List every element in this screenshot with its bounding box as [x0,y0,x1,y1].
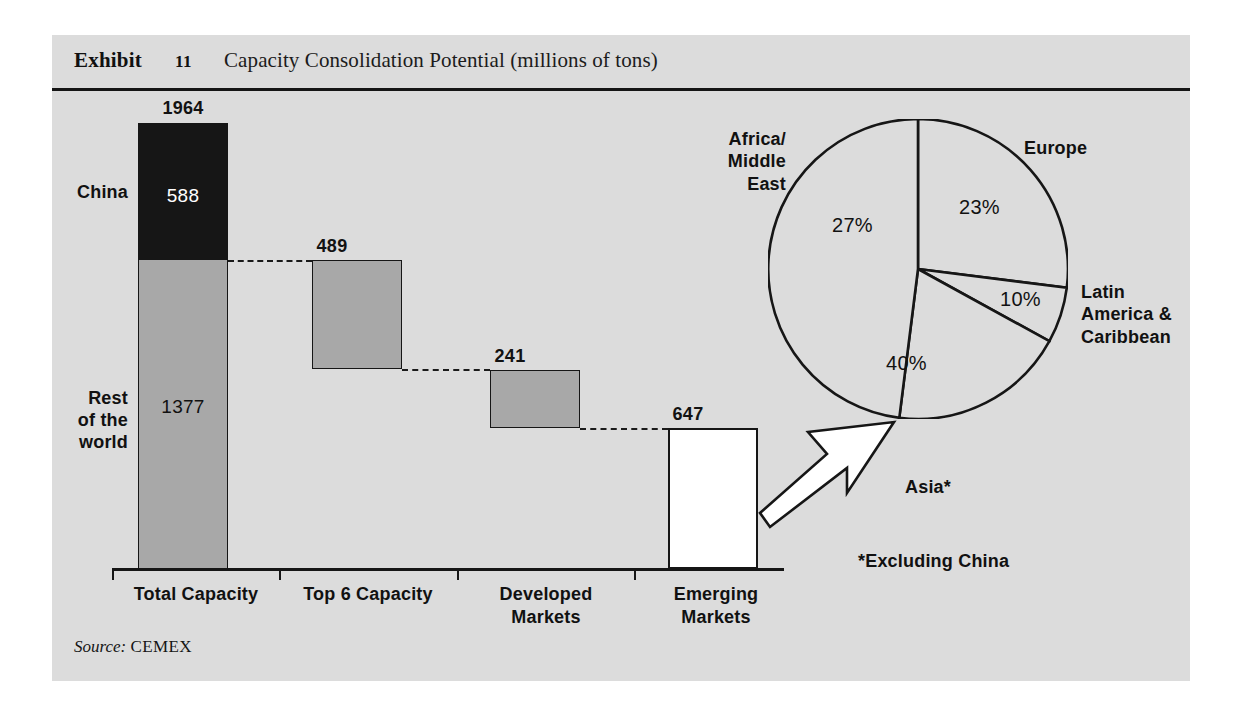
chart-plot-area: 1964 588 1377 China Restof theworld 489 … [0,0,1240,722]
x-axis-label-emerging-markets: EmergingMarkets [628,583,804,628]
bar-segment-label-rest-of-world: 1377 [138,396,228,418]
bar-developed-markets [490,370,580,428]
axis-tick-3 [634,568,636,580]
pie-value-latin-america: 10% [1000,288,1041,311]
x-axis-label-total-capacity: Total Capacity [108,583,284,606]
source-note: Source: CEMEX [74,637,192,657]
axis-tick-1 [279,568,281,580]
x-axis-line [112,568,784,571]
series-label-rest-of-world: Restof theworld [36,388,128,454]
series-label-china: China [40,182,128,204]
connector-line-2 [402,369,490,371]
arrow-icon [752,400,922,550]
connector-line-3 [580,428,668,430]
source-value: CEMEX [131,637,193,656]
bar-value-top6-capacity: 489 [262,236,402,257]
pie-label-latin-america: LatinAmerica &Caribbean [1081,281,1231,348]
bar-segment-label-china: 588 [138,185,228,207]
pie-label-africa-middle-east: Africa/MiddleEast [666,128,786,195]
pie-value-europe: 23% [959,196,1000,219]
exhibit-figure: Exhibit 11 Capacity Consolidation Potent… [0,0,1240,722]
source-label: Source: [74,637,126,656]
bar-value-total-capacity: 1964 [88,98,278,119]
pie-label-europe: Europe [1024,137,1164,159]
axis-tick-0 [112,568,114,580]
footnote-excluding-china: *Excluding China [858,551,1009,572]
connector-line-1 [228,260,312,262]
axis-tick-2 [457,568,459,580]
pie-value-asia: 40% [886,352,927,375]
x-axis-label-developed-markets: DevelopedMarkets [456,583,636,628]
pie-value-africa-middle-east: 27% [832,214,873,237]
bar-top6-capacity [312,260,402,369]
pie-label-asia: Asia* [905,477,951,498]
bar-emerging-markets [668,428,758,569]
bar-value-developed-markets: 241 [440,346,580,367]
x-axis-label-top6-capacity: Top 6 Capacity [285,583,451,606]
bar-value-emerging-markets: 647 [618,404,758,425]
